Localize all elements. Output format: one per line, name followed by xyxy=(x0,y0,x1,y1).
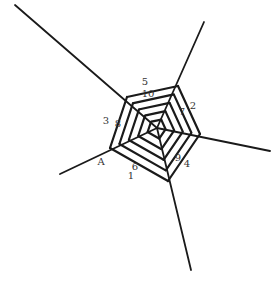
label-9: 9 xyxy=(175,152,181,163)
label-1: 1 xyxy=(128,170,134,181)
label-5: 5 xyxy=(142,76,148,87)
ray-bottom xyxy=(157,128,191,270)
label-4: 4 xyxy=(184,158,190,169)
hatch-line xyxy=(129,140,163,159)
ray-top-left xyxy=(15,5,157,128)
label-10: 10 xyxy=(142,88,155,99)
label-7: 7 xyxy=(179,106,185,117)
hatch-line xyxy=(120,103,133,143)
label-3: 3 xyxy=(103,115,109,126)
hatch-line xyxy=(166,112,174,131)
diagram-canvas: 510273894A61 xyxy=(0,0,279,285)
spiral-web-diagram: 510273894A61 xyxy=(0,0,279,285)
hatch-line xyxy=(148,132,159,138)
hatch-line xyxy=(138,116,145,136)
ray-right xyxy=(157,128,270,151)
hatch-line xyxy=(110,148,168,181)
label-A: A xyxy=(96,156,105,167)
label-8: 8 xyxy=(115,118,121,129)
hatch-line xyxy=(161,120,165,129)
label-2: 2 xyxy=(190,100,196,111)
